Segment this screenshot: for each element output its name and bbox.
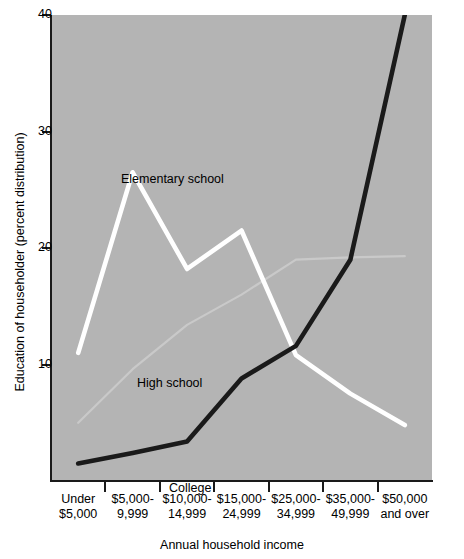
line-chart: Elementary school High school College 10… — [0, 0, 464, 559]
series-line-elementary — [78, 172, 405, 425]
y-tick-label: 10 — [26, 358, 52, 370]
x-tick-mark — [268, 482, 270, 492]
x-tick-label: $50,000and over — [359, 492, 451, 522]
series-canvas — [51, 15, 432, 481]
series-label-elementary: Elementary school — [121, 172, 224, 186]
x-tick-mark — [159, 482, 161, 492]
y-tick-label: 40 — [26, 8, 52, 20]
x-tick-mark — [377, 482, 379, 492]
x-tick-label-line2: and over — [359, 507, 451, 522]
series-label-high-school: High school — [137, 376, 202, 390]
y-axis-title: Education of householder (percent distri… — [13, 92, 27, 432]
y-tick-label: 30 — [26, 125, 52, 137]
plot-area: Elementary school High school College — [51, 15, 432, 481]
x-tick-mark — [322, 482, 324, 492]
x-tick-mark — [213, 482, 215, 492]
x-axis-title: Annual household income — [0, 538, 464, 552]
x-axis-line — [50, 480, 433, 482]
y-tick-label-wrap: 40 — [0, 8, 52, 20]
y-tick-label: 20 — [26, 241, 52, 253]
x-tick-label-line1: $50,000 — [382, 492, 427, 506]
x-tick-mark — [104, 482, 106, 492]
